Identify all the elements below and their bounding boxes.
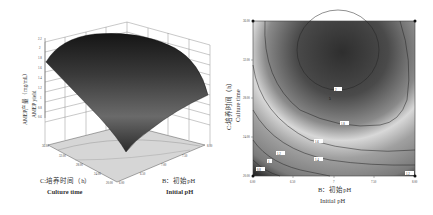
contour-label: 1.2 (406, 172, 410, 176)
y-tick: 7.50 (182, 154, 188, 158)
center-point-label: 5 (329, 97, 331, 101)
x-tick: 24.00 (94, 172, 101, 176)
contour-y-label-en: Culture time (234, 89, 241, 122)
surface-plot-3d: 2.2 2 1.8 1.6 1.4 1.2 1 0.8 0.6 AMEP产量（m… (21, 22, 213, 195)
y-tick: 24.00 (243, 135, 250, 139)
x-tick: 6.00 (250, 180, 256, 184)
z-tick: 0.8 (38, 106, 42, 110)
z-axis: 2.2 2 1.8 1.6 1.4 1.2 1 0.8 0.6 (38, 37, 45, 119)
contour-y-axis: 36.00 32.00 28.00 24.00 20.00 (243, 19, 253, 178)
x-axis-label-en: Culture time (47, 188, 83, 195)
contour-label: 1.6 (315, 140, 319, 144)
x-tick: 32.00 (59, 154, 66, 158)
z-tick: 1.4 (38, 76, 42, 80)
y-axis-label-cn: B：初始pH (162, 176, 196, 185)
y-axis-label-en: Initial pH (166, 188, 193, 195)
contour-x-label-cn: B：初始pH (318, 185, 352, 194)
z-tick: 1.8 (38, 56, 42, 60)
contour-label: 1.4 (315, 158, 319, 162)
x-tick: 6.50 (290, 180, 296, 184)
x-tick: 28.00 (76, 163, 83, 167)
x-tick: 36.00 (42, 144, 49, 148)
z-tick: 1.6 (38, 66, 42, 70)
y-tick: 8.00 (207, 144, 213, 148)
z-tick: 2.2 (38, 37, 42, 41)
y-tick: 32.00 (243, 58, 250, 62)
x-tick: 20.00 (106, 181, 113, 185)
z-axis-label-en: AMEP yield (31, 90, 37, 118)
y-tick: 36.00 (243, 19, 250, 23)
y-tick: 6.00 (119, 181, 125, 185)
y-tick: 20.00 (243, 174, 250, 178)
z-tick: 1 (40, 96, 42, 100)
x-axis-label-cn: C:培养时间（h） (40, 176, 91, 185)
z-tick: 0.6 (38, 115, 42, 119)
contour-label: 1.8 (341, 122, 345, 126)
response-surface (46, 33, 208, 152)
x-tick: 7 (333, 180, 335, 184)
y-tick: 7.00 (161, 163, 167, 167)
y-tick: 28.00 (243, 96, 250, 100)
contour-x-axis: 6.00 6.50 7 7.50 8.00 (250, 176, 418, 184)
contour-label: 1.2 (277, 152, 281, 156)
y-tick: 6.50 (140, 172, 146, 176)
figure-canvas: 2.2 2 1.8 1.6 1.4 1.2 1 0.8 0.6 AMEP产量（m… (0, 0, 433, 215)
z-axis-label-cn: AMEP产量（mg/mL） (21, 70, 29, 125)
x-tick: 8.00 (412, 180, 418, 184)
x-tick: 7.50 (371, 180, 377, 184)
z-tick: 2 (39, 46, 41, 50)
contour-label: 0.8 (257, 168, 261, 172)
contour-x-label-en: Initial pH (320, 197, 345, 204)
contour-y-label-cn: C:培养时间（h） (224, 79, 233, 130)
contour-plot: 2 5 1.8 1.6 1.4 1.2 1 0.8 1.2 (224, 10, 418, 204)
z-tick: 1.2 (38, 86, 42, 90)
